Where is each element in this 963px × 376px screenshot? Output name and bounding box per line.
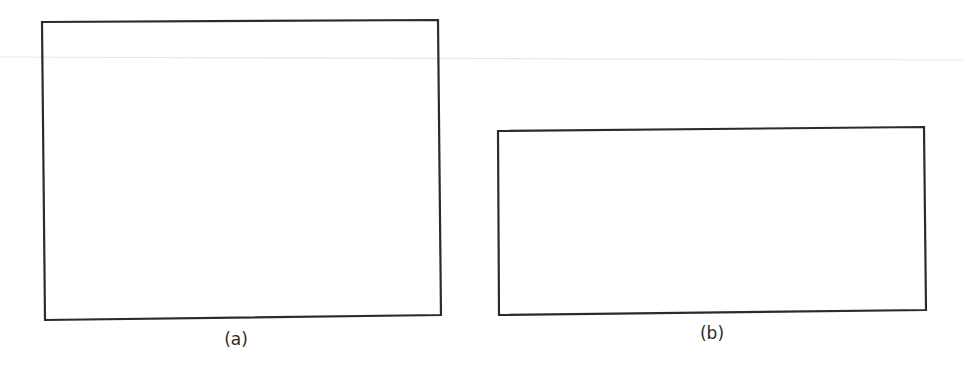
scan-artifact-line [0, 57, 963, 60]
figure-canvas [0, 0, 963, 376]
caption-b: (b) [700, 323, 724, 343]
rectangle-a [42, 20, 441, 320]
rectangle-b [498, 127, 926, 315]
caption-a: (a) [224, 329, 248, 349]
